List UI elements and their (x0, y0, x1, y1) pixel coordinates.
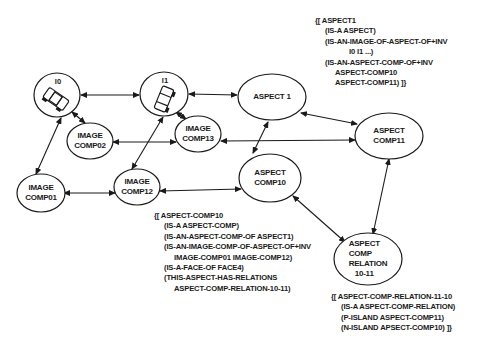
frame-line: ASPECT-COMP10 (315, 68, 447, 78)
frame-line: {[ ASPECT-COMP10 (154, 211, 311, 221)
label-line: COMP13 (182, 134, 214, 143)
frame-line: {[ ASPECT1 (315, 16, 447, 26)
frame-line: (IS-A ASPECT) (315, 26, 447, 36)
edge-i1-imagecomp13 (176, 112, 186, 119)
node-aspect-comp-relation-label: ASPECT COMP RELATION 10-11 (349, 239, 388, 279)
frame-aspect-comp-relation: {[ ASPECT-COMP-RELATION-11-10 (IS-A ASPE… (331, 292, 455, 334)
label-line: COMP10 (254, 178, 286, 187)
label-line: COMP01 (25, 193, 57, 202)
label-line: ASPECT (254, 168, 285, 177)
label-line: COMP02 (74, 141, 106, 150)
edge-i1-imagecomp12 (132, 117, 163, 169)
frame-aspect1: {[ ASPECT1 (IS-A ASPECT) (IS-AN-IMAGE-OF… (315, 16, 447, 89)
frame-line: IMAGE-COMP01 IMAGE-COMP12) (154, 253, 311, 263)
frame-line: ASPECT-COMP-RELATION-10-11) (154, 284, 311, 294)
label-line: RELATION (349, 259, 388, 268)
frame-line: (IS-AN-IMAGE-OF-ASPECT-OF+INV (315, 37, 447, 47)
label-line: ASPECT (373, 126, 404, 135)
node-aspect1-label: ASPECT 1 (253, 92, 291, 102)
frame-line: (IS-A-FACE-OF FACE4) (154, 263, 311, 273)
frame-line: (IS-AN-IMAGE-COMP-OF-ASPECT-OF+INV (154, 242, 311, 252)
node-image-comp13-label: IMAGE COMP13 (182, 124, 214, 144)
frame-line: {[ ASPECT-COMP-RELATION-11-10 (331, 292, 455, 302)
label-line: IMAGE (28, 183, 53, 192)
frame-line: (IS-AN-ASPECT-COMP-OF ASPECT1) (154, 232, 311, 242)
edge-aspect1-aspectcomp10 (253, 122, 268, 153)
frame-line: (IS-A ASPECT-COMP) (154, 221, 311, 231)
edge-imagecomp12-aspectcomp10 (160, 189, 241, 191)
node-aspect-comp11-label: ASPECT COMP11 (373, 126, 404, 146)
frame-line: I0 I1 ...) (315, 47, 447, 57)
frame-line: ASPECT-COMP11) ]} (315, 78, 447, 88)
frame-line: (IS-A ASPECT-COMP-RELATION) (331, 302, 455, 312)
label-line: COMP11 (373, 136, 404, 145)
edge-i0-imagecomp02 (72, 112, 85, 123)
frame-line: (IS-AN-ASPECT-COMP-OF+INV (315, 58, 447, 68)
node-image-comp02-label: IMAGE COMP02 (74, 131, 106, 151)
node-i1-label: I1 (162, 76, 168, 85)
label-line: ASPECT (349, 239, 380, 248)
label-line: 10-11 (349, 269, 374, 278)
label-line: IMAGE (77, 131, 102, 140)
node-aspect-comp10-label: ASPECT COMP10 (254, 168, 286, 188)
node-image-comp12-label: IMAGE COMP12 (121, 177, 153, 197)
label-line: COMP12 (121, 187, 153, 196)
node-i0-label: I0 (55, 77, 61, 86)
edge-aspectcomp11-relation (373, 159, 389, 234)
frame-line: (THIS-ASPECT-HAS-RELATIONS (154, 273, 311, 283)
edge-imagecomp13-aspectcomp11 (221, 140, 355, 141)
edge-aspect1-aspectcomp11 (301, 113, 357, 124)
frame-line: (P-ISLAND ASPECT-COMP11) (331, 313, 455, 323)
node-image-comp01-label: IMAGE COMP01 (25, 183, 57, 203)
label-line: IMAGE (124, 177, 149, 186)
edge-i0-imagecomp01 (36, 118, 61, 174)
frame-aspect-comp10: {[ ASPECT-COMP10 (IS-A ASPECT-COMP) (IS-… (154, 211, 311, 294)
label-line: IMAGE (185, 124, 210, 133)
edge-i1-aspect1 (189, 94, 237, 95)
frame-line: (N-ISLAND APSECT-COMP10) ]} (331, 323, 455, 333)
label-line: COMP (349, 249, 372, 258)
